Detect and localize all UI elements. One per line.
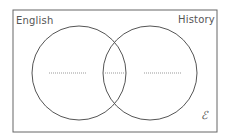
universal-set-frame [13,10,217,132]
universal-set-symbol: ℰ [201,109,208,122]
set-label-english: English [16,15,54,26]
set-label-history: History [178,14,215,25]
